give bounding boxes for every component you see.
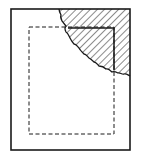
hatched-torn-corner [59,9,130,76]
diagram-figure [0,0,141,158]
